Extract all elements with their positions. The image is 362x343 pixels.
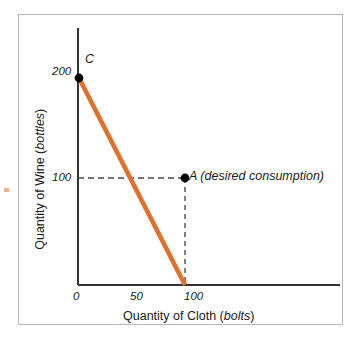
y-axis-title: Quantity of Wine (bottles) (34, 79, 47, 279)
x-axis-title: Quantity of Cloth (bolts) (123, 310, 254, 323)
figure-container: 200 100 0 50 100 C A (desired consumptio… (0, 0, 362, 343)
y-tick-label-200: 200 (52, 66, 71, 78)
x-tick-label-100: 100 (184, 291, 203, 303)
y-axis-title-tail: ) (33, 109, 47, 113)
scan-artifact (4, 188, 9, 192)
point-a-label: A (desired consumption) (189, 170, 324, 183)
x-axis-title-lead: Quantity of Cloth ( (123, 309, 224, 323)
x-tick-label-0: 0 (73, 291, 79, 303)
point-c-label: C (85, 53, 94, 66)
y-tick-label-100: 100 (52, 172, 71, 184)
ppf-line (79, 78, 185, 285)
y-axis-title-lead: Quantity of Wine ( (33, 150, 47, 250)
x-axis-title-tail: ) (250, 309, 254, 323)
x-axis-title-emphasis: bolts (224, 309, 250, 323)
x-tick-label-50: 50 (130, 291, 143, 303)
point-c-marker (75, 74, 84, 83)
y-axis-title-emphasis: bottles (33, 113, 47, 150)
